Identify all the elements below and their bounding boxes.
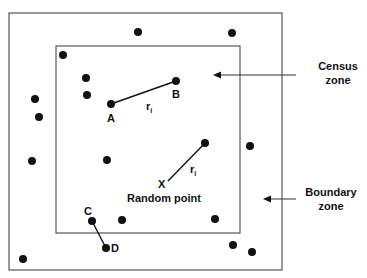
label-c: C	[84, 205, 92, 217]
tree-points	[19, 28, 256, 263]
boundary-zone-label-1: Boundary	[305, 186, 357, 198]
census-arrow-head	[213, 72, 221, 79]
label-d: D	[111, 242, 119, 254]
distance-line-cd	[92, 221, 106, 248]
sampling-diagram: A B C D X Random point ri ri Census zone…	[0, 0, 367, 278]
boundary-arrow-head	[263, 196, 271, 203]
distance-line-x	[168, 143, 205, 181]
boundary-zone-box	[9, 13, 282, 270]
census-zone-label-1: Census	[318, 60, 358, 72]
label-b: B	[172, 88, 180, 100]
census-zone-label-2: zone	[325, 74, 350, 86]
boundary-zone-label-2: zone	[318, 200, 343, 212]
distance-line-ab	[111, 81, 176, 104]
label-a: A	[107, 112, 115, 124]
label-x: X	[158, 178, 166, 190]
label-ri-ab: ri	[146, 100, 152, 114]
label-ri-x: ri	[190, 163, 196, 177]
label-random-point: Random point	[127, 192, 201, 204]
